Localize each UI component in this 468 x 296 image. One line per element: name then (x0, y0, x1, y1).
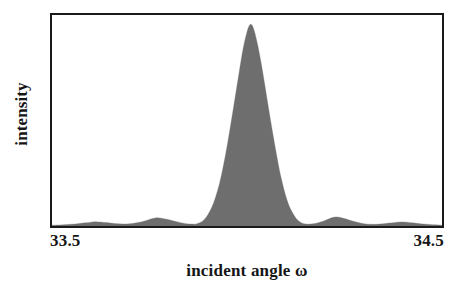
x-axis-tick-label-right: 34.5 (413, 231, 444, 251)
figure-container: intensity 33.5 34.5 incident angle ω (0, 0, 468, 296)
x-axis-label: incident angle ω (50, 261, 444, 281)
x-axis-tick-label-left: 33.5 (50, 231, 81, 251)
plot-area (50, 13, 444, 228)
rocking-curve-plot (52, 15, 442, 226)
y-axis-label: intensity (0, 0, 44, 228)
y-axis-label-text: intensity (12, 82, 32, 145)
rocking-curve-area (52, 24, 442, 226)
